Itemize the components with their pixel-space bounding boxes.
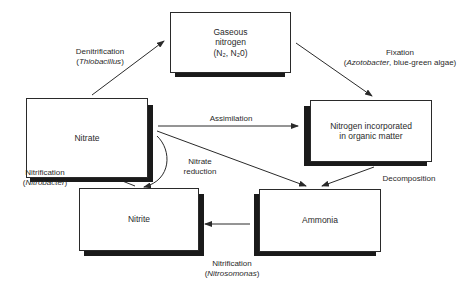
decomposition-process: Decomposition <box>383 174 436 183</box>
label-nitrification-nitrosomonas: Nitrification (Nitrosomonas) <box>192 259 272 279</box>
organic-line1: Nitrogen incorporated <box>330 121 412 131</box>
gaseous-nitrogen-line3: (N₂, N₂0) <box>213 48 247 58</box>
organic-line2: in organic matter <box>330 131 412 141</box>
node-nitrite: Nitrite <box>79 188 199 251</box>
gaseous-nitrogen-line1: Gaseous <box>213 27 247 37</box>
label-nitrate-reduction: Nitrate reduction <box>170 157 230 177</box>
denitrification-process: Denitrification <box>60 47 140 57</box>
node-nitrogen-organic: Nitrogen incorporated in organic matter <box>310 100 432 162</box>
nitrosomonas-organism: Nitrosomonas <box>207 269 256 278</box>
label-assimilation: Assimilation <box>196 114 266 124</box>
node-gaseous-nitrogen: Gaseous nitrogen (N₂, N₂0) <box>170 12 291 73</box>
nitrate-label: Nitrate <box>74 133 99 143</box>
nitrobacter-process: Nitrification <box>10 168 80 178</box>
decomposition-arrow <box>322 167 374 186</box>
fixation-process: Fixation <box>330 48 470 58</box>
ammonia-label: Ammonia <box>302 215 338 225</box>
nitrate-reduction-line1: Nitrate <box>170 157 230 167</box>
nitrosomonas-process: Nitrification <box>192 259 272 269</box>
gaseous-nitrogen-line2: nitrogen <box>213 37 247 47</box>
denitrification-organism: Thiobacillus <box>79 57 121 66</box>
fixation-organism-wrap: (Azotobacter, blue-green algae) <box>330 58 470 68</box>
denitrification-organism-wrap: (Thiobacillus) <box>60 57 140 67</box>
label-denitrification: Denitrification (Thiobacillus) <box>60 47 140 67</box>
nitrosomonas-organism-wrap: (Nitrosomonas) <box>192 269 272 279</box>
fixation-extra: , blue-green algae <box>389 58 454 67</box>
fixation-organism: Azotobacter <box>346 58 389 67</box>
label-fixation: Fixation (Azotobacter, blue-green algae) <box>330 48 470 68</box>
nitrate-reduction-line2: reduction <box>170 167 230 177</box>
node-ammonia: Ammonia <box>259 189 381 252</box>
nitrite-label: Nitrite <box>128 214 150 224</box>
label-decomposition: Decomposition <box>374 174 444 184</box>
node-nitrate: Nitrate <box>26 98 148 178</box>
nitrobacter-organism-wrap: (Nitrobacter) <box>10 178 80 188</box>
nitrobacter-organism: Nitrobacter <box>25 178 64 187</box>
label-nitrification-nitrobacter: Nitrification (Nitrobacter) <box>10 168 80 188</box>
assimilation-process: Assimilation <box>210 114 253 123</box>
